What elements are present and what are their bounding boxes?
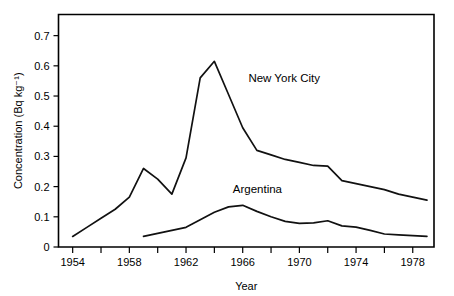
x-tick-label: 1954: [60, 256, 84, 268]
chart-figure: 00.10.20.30.40.50.60.7 19541958196219661…: [0, 0, 454, 296]
y-axis-tick-labels: 00.10.20.30.40.50.60.7: [34, 30, 49, 253]
x-tick-label: 1966: [230, 256, 254, 268]
y-tick-label: 0.1: [34, 211, 49, 223]
plot-frame: [59, 15, 435, 248]
y-axis-title: Concentration (Bq kg⁻¹): [12, 72, 24, 189]
y-tick-label: 0.6: [34, 60, 49, 72]
x-axis-tick-labels: 1954195819621966197019741978: [60, 256, 425, 268]
axis-frame: [59, 15, 435, 248]
y-tick-label: 0.2: [34, 181, 49, 193]
y-tick-label: 0: [43, 241, 49, 253]
x-tick-label: 1962: [174, 256, 198, 268]
series-line-0: [73, 61, 427, 236]
x-tick-label: 1958: [117, 256, 141, 268]
y-tick-label: 0.7: [34, 30, 49, 42]
x-tick-label: 1970: [287, 256, 311, 268]
series-line-1: [144, 205, 427, 236]
line-chart-svg: 00.10.20.30.40.50.60.7 19541958196219661…: [0, 0, 454, 296]
x-axis-title: Year: [235, 280, 258, 292]
y-tick-label: 0.3: [34, 150, 49, 162]
x-tick-label: 1974: [344, 256, 368, 268]
x-tick-label: 1978: [401, 256, 425, 268]
data-series-group: [73, 61, 427, 236]
series-label-1: Argentina: [233, 183, 283, 195]
y-tick-label: 0.5: [34, 90, 49, 102]
x-axis-ticks: [73, 247, 413, 253]
y-tick-label: 0.4: [34, 120, 49, 132]
series-label-0: New York City: [248, 72, 320, 84]
